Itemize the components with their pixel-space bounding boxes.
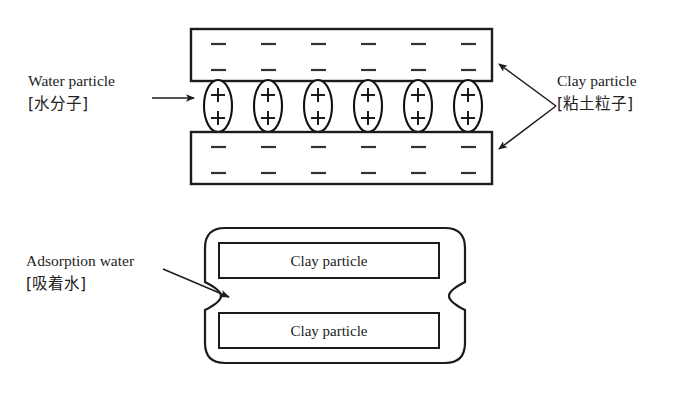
lower-clay-slab: [191, 132, 492, 184]
adsorption-water-label: Adsorption water [吸着水]: [26, 252, 135, 293]
top-diagram: [152, 29, 556, 184]
water-particle-label-en: Water particle: [28, 72, 115, 89]
clay-particle-label: Clay particle [粘土粒子]: [557, 72, 637, 113]
water-particle-ellipse-row: [204, 80, 482, 132]
water-particle-ellipse: [404, 80, 432, 132]
water-particle-ellipse: [454, 80, 482, 132]
water-particle-label-jp: [水分子]: [28, 95, 88, 113]
clay-particle-box-top-label: Clay particle: [290, 253, 367, 269]
clay-particle-label-jp: [粘土粒子]: [557, 95, 633, 113]
clay-particle-box-bottom-label: Clay particle: [290, 323, 367, 339]
water-particle-ellipse: [254, 80, 282, 132]
upper-clay-slab: [191, 29, 492, 81]
adsorption-water-label-en: Adsorption water: [26, 252, 135, 269]
bottom-diagram: Clay particle Clay particle: [163, 228, 465, 363]
adsorption-water-label-jp: [吸着水]: [26, 275, 86, 293]
diagram-root: Water particle [水分子] Clay particle [粘土粒子…: [0, 0, 679, 393]
water-particle-ellipse: [204, 80, 232, 132]
clay-particle-label-en: Clay particle: [557, 72, 637, 89]
clay-particle-double-arrow: [499, 64, 556, 149]
water-particle-label: Water particle [水分子]: [28, 72, 115, 113]
water-particle-ellipse: [304, 80, 332, 132]
clay-adsorption-figure: Water particle [水分子] Clay particle [粘土粒子…: [0, 0, 679, 393]
water-particle-ellipse: [354, 80, 382, 132]
